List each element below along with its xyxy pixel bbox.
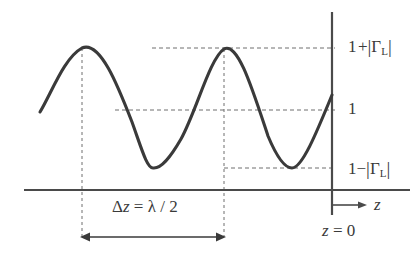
spacing-slash: /	[160, 197, 165, 216]
label-maximum-value: 1 +|ΓL|	[348, 36, 392, 57]
spacing-two: 2	[169, 197, 178, 216]
label-max-bar-open: |	[368, 36, 372, 57]
label-max-bar-close: |	[388, 36, 392, 57]
label-max-lead: 1	[348, 37, 357, 56]
spacing-variable: z	[123, 197, 130, 216]
label-min-lead: 1	[348, 159, 357, 178]
label-origin: z = 0	[322, 222, 355, 239]
label-unit-value: 1	[348, 100, 357, 117]
label-z-axis: z	[374, 196, 381, 213]
gamma-subscript: L	[381, 45, 388, 57]
standing-wave-diagram: 1 +|ΓL| 1 1−|ΓL| Δz = λ / 2 z z = 0	[0, 0, 418, 260]
spacing-measure-arrow	[80, 233, 226, 242]
label-min-bar-close: |	[386, 158, 390, 179]
label-max-operator: +	[358, 37, 368, 56]
delta-symbol: Δ	[112, 197, 123, 216]
gamma-symbol: Γ	[370, 159, 380, 178]
label-min-bar-open: |	[366, 158, 370, 179]
label-spacing: Δz = λ / 2	[112, 198, 178, 215]
lambda-symbol: λ	[148, 197, 156, 216]
gamma-symbol: Γ	[371, 37, 381, 56]
spacing-equals: =	[134, 197, 144, 216]
standing-wave-curve	[40, 47, 332, 168]
label-min-operator: −	[357, 159, 367, 178]
origin-value: 0	[347, 221, 356, 240]
origin-variable: z	[322, 221, 329, 240]
label-minimum-value: 1−|ΓL|	[348, 158, 390, 179]
z-direction-arrow	[332, 202, 367, 209]
origin-equals: =	[333, 221, 343, 240]
